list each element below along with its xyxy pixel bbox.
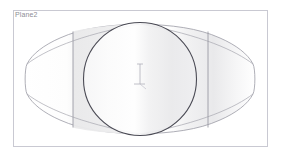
plane-label[interactable]: Plane2 [15,11,37,19]
cad-viewport[interactable]: Plane2 [0,0,282,160]
cad-drawing-canvas[interactable] [0,0,282,160]
